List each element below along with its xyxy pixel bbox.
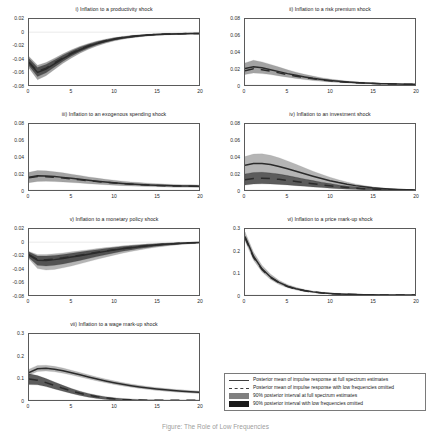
y-axis-tick-label: 0.02 (0, 225, 24, 231)
y-axis-tick-label: 0.1 (216, 270, 240, 276)
legend-item: Posterior mean of impulse response at fu… (228, 376, 422, 384)
x-axis-tick-label: 15 (154, 193, 160, 199)
x-axis-tick-label: 0 (27, 403, 30, 409)
y-axis-tick-label: 0 (0, 239, 24, 245)
x-axis-tick-label: 15 (370, 88, 376, 94)
x-axis-tick-label: 15 (154, 88, 160, 94)
y-axis-tick-label: 0.02 (0, 15, 24, 21)
y-axis-tick-label: 0.02 (0, 171, 24, 177)
y-axis-tick-label: 0 (216, 83, 240, 89)
legend-swatch-icon (228, 401, 250, 408)
y-axis-tick-label: 0.2 (0, 353, 24, 359)
legend-item-label: Posterior mean of impulse response with … (253, 386, 394, 391)
y-axis-tick-label: 0.2 (216, 248, 240, 254)
x-axis-tick-label: 5 (70, 193, 73, 199)
legend-item: 90% posterior interval with low frequenc… (228, 400, 422, 408)
y-axis-tick-label: -0.06 (0, 279, 24, 285)
x-axis-tick-label: 0 (27, 193, 30, 199)
legend-solid-line-icon (228, 377, 250, 384)
panel-title: vi) Inflation to a price mark-up shock (244, 216, 416, 222)
y-axis-tick-label: -0.02 (0, 252, 24, 258)
x-axis-tick-label: 10 (327, 88, 333, 94)
panel-monetary-policy: v) Inflation to a monetary policy shock0… (0, 210, 215, 315)
legend-item: 90% posterior interval at full spectrum … (228, 392, 422, 400)
y-axis-tick-label: 0.1 (0, 375, 24, 381)
x-axis-tick-label: 15 (154, 403, 160, 409)
y-axis-tick-label: 0.08 (0, 120, 24, 126)
panel-investment: iv) Inflation to an investment shock0.08… (216, 105, 431, 210)
x-axis-tick-label: 15 (370, 193, 376, 199)
y-axis-tick-label: 0 (216, 188, 240, 194)
figure-legend: Posterior mean of impulse response at fu… (224, 373, 426, 411)
y-axis-tick-label: -0.04 (0, 266, 24, 272)
legend-item: Posterior mean of impulse response with … (228, 384, 422, 392)
x-axis-tick-label: 20 (413, 88, 419, 94)
panel-title: vii) Inflation to a wage mark-up shock (28, 321, 200, 327)
x-axis-tick-label: 10 (111, 298, 117, 304)
x-axis-tick-label: 20 (413, 298, 419, 304)
panel-title: iii) Inflation to an exogenous spending … (28, 111, 200, 117)
y-axis-tick-label: 0 (0, 188, 24, 194)
x-axis-tick-label: 0 (243, 193, 246, 199)
x-axis-tick-label: 5 (286, 298, 289, 304)
legend-item-label: 90% posterior interval with low frequenc… (253, 402, 363, 407)
legend-swatch-icon (228, 393, 250, 400)
figure-panel-grid: i) Inflation to a productivity shock0.02… (0, 0, 431, 432)
x-axis-tick-label: 10 (111, 88, 117, 94)
figure-caption: Figure: The Role of Low Frequencies (0, 423, 431, 432)
x-axis-tick-label: 5 (286, 193, 289, 199)
panel-productivity: i) Inflation to a productivity shock0.02… (0, 0, 215, 105)
panel-price-markup: vi) Inflation to a price mark-up shock0.… (216, 210, 431, 315)
x-axis-tick-label: 5 (286, 88, 289, 94)
x-axis-tick-label: 0 (27, 88, 30, 94)
panel-exogenous-spending: iii) Inflation to an exogenous spending … (0, 105, 215, 210)
y-axis-tick-label: 0.02 (216, 171, 240, 177)
y-axis-tick-label: 0.06 (216, 32, 240, 38)
panel-title: iv) Inflation to an investment shock (244, 111, 416, 117)
x-axis-tick-label: 0 (243, 298, 246, 304)
plot-area (28, 18, 200, 86)
panel-title: ii) Inflation to a risk premium shock (244, 6, 416, 12)
panel-title: i) Inflation to a productivity shock (28, 6, 200, 12)
x-axis-tick-label: 5 (70, 88, 73, 94)
y-axis-tick-label: 0.04 (216, 49, 240, 55)
plot-area (244, 18, 416, 86)
y-axis-tick-label: -0.06 (0, 69, 24, 75)
x-axis-tick-label: 20 (413, 193, 419, 199)
legend-item-label: 90% posterior interval at full spectrum … (253, 394, 357, 399)
legend-item-label: Posterior mean of impulse response at fu… (253, 378, 388, 383)
x-axis-tick-label: 20 (197, 298, 203, 304)
plot-area (244, 123, 416, 191)
x-axis-tick-label: 0 (243, 88, 246, 94)
y-axis-tick-label: 0.3 (0, 330, 24, 336)
x-axis-tick-label: 10 (327, 193, 333, 199)
x-axis-tick-label: 15 (154, 298, 160, 304)
x-axis-tick-label: 5 (70, 298, 73, 304)
y-axis-tick-label: 0.3 (216, 225, 240, 231)
y-axis-tick-label: -0.08 (0, 293, 24, 299)
x-axis-tick-label: 20 (197, 193, 203, 199)
x-axis-tick-label: 5 (70, 403, 73, 409)
y-axis-tick-label: -0.02 (0, 42, 24, 48)
panel-risk-premium: ii) Inflation to a risk premium shock0.0… (216, 0, 431, 105)
y-axis-tick-label: 0 (0, 29, 24, 35)
plot-area (28, 123, 200, 191)
y-axis-tick-label: 0.06 (0, 137, 24, 143)
x-axis-tick-label: 15 (370, 298, 376, 304)
legend-dashed-line-icon (228, 385, 250, 392)
panel-title: v) Inflation to a monetary policy shock (28, 216, 200, 222)
x-axis-tick-label: 10 (111, 193, 117, 199)
y-axis-tick-label: 0.04 (0, 154, 24, 160)
x-axis-tick-label: 0 (27, 298, 30, 304)
panel-wage-markup: vii) Inflation to a wage mark-up shock0.… (0, 315, 215, 420)
y-axis-tick-label: 0.06 (216, 137, 240, 143)
plot-area (28, 228, 200, 296)
x-axis-tick-label: 20 (197, 88, 203, 94)
x-axis-tick-label: 20 (197, 403, 203, 409)
y-axis-tick-label: 0.02 (216, 66, 240, 72)
y-axis-tick-label: 0.08 (216, 120, 240, 126)
y-axis-tick-label: -0.08 (0, 83, 24, 89)
y-axis-tick-label: 0.08 (216, 15, 240, 21)
x-axis-tick-label: 10 (111, 403, 117, 409)
y-axis-tick-label: 0.04 (216, 154, 240, 160)
